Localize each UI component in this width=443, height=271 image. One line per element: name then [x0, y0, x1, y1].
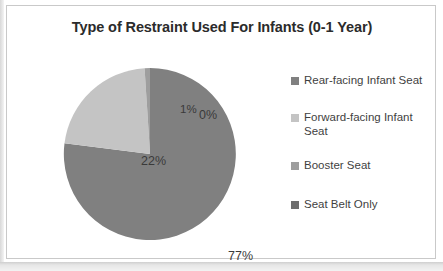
pie-label-rear-facing-infant-seat: 0% [199, 108, 217, 122]
pie-chart: 77% 22% 1% 0% [57, 61, 247, 251]
legend-label: Rear-facing Infant Seat [304, 74, 436, 88]
page-edge-bottom [0, 262, 443, 271]
legend-label: Booster Seat [304, 159, 436, 173]
chart-container: Type of Restraint Used For Infants (0-1 … [6, 5, 436, 259]
pie-label-seat-belt-only: 77% [228, 249, 253, 263]
legend-item-rear-facing-infant-seat[interactable]: Rear-facing Infant Seat [291, 74, 436, 88]
legend-item-forward-facing-infant-seat[interactable]: Forward-facing Infant Seat [291, 111, 436, 138]
chart-title: Type of Restraint Used For Infants (0-1 … [27, 19, 417, 35]
page-edge-left [0, 0, 4, 271]
pie-slice-booster-seat[interactable] [65, 68, 151, 154]
pie-label-forward-facing-infant-seat: 1% [180, 103, 197, 115]
legend-item-booster-seat[interactable]: Booster Seat [291, 159, 436, 173]
legend-swatch-icon [291, 77, 299, 85]
screenshot-root: Type of Restraint Used For Infants (0-1 … [0, 0, 443, 271]
legend-label: Seat Belt Only [304, 198, 436, 212]
legend-swatch-icon [291, 162, 299, 170]
legend-swatch-icon [291, 114, 299, 122]
legend-label: Forward-facing Infant Seat [304, 111, 436, 138]
pie-label-booster-seat: 22% [141, 154, 166, 168]
legend-item-seat-belt-only[interactable]: Seat Belt Only [291, 198, 436, 212]
legend-swatch-icon [291, 201, 299, 209]
